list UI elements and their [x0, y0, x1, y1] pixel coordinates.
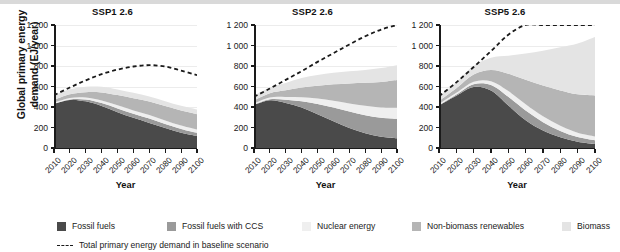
x-tick [101, 149, 102, 153]
x-axis-title: Year [54, 180, 197, 190]
x-axis-line [439, 148, 595, 150]
x-tick [269, 149, 270, 153]
legend-item-fossil-fuels-with-ccs: Fossil fuels with CCS [167, 219, 263, 233]
y-tick [51, 45, 55, 46]
x-tick [333, 149, 334, 153]
legend-item-biomass: Biomass [562, 219, 610, 233]
y-tick-label: 0 [214, 143, 248, 153]
x-tick-label: 2060 [512, 155, 535, 178]
y-tick-label: 200 [14, 123, 48, 133]
legend-item-baseline: Total primary energy demand in baseline … [57, 238, 269, 252]
x-axis-line [54, 148, 197, 150]
y-tick-label: 400 [14, 102, 48, 112]
x-tick [560, 149, 561, 153]
panel-title: SSP5 2.6 [405, 6, 605, 17]
y-tick [436, 106, 440, 107]
x-tick-label: 2070 [529, 155, 552, 178]
y-tick-label: 200 [214, 123, 248, 133]
x-tick-label: 2010 [425, 155, 448, 178]
legend-item-non-biomass-renewables: Non-biomass renewables [412, 219, 524, 233]
legend-swatch-icon [167, 222, 176, 231]
chart-panel-ssp2: SSP2 2.602004006008001 0001 200201020202… [220, 4, 405, 200]
y-tick [436, 86, 440, 87]
y-tick-label: 0 [399, 143, 433, 153]
legend-label: Fossil fuels [72, 221, 115, 231]
x-tick [165, 149, 166, 153]
x-tick [508, 149, 509, 153]
y-tick-label: 1 200 [14, 20, 48, 30]
y-tick [251, 106, 255, 107]
y-tick [51, 86, 55, 87]
y-tick-label: 400 [214, 102, 248, 112]
y-tick [251, 65, 255, 66]
x-tick [577, 149, 578, 153]
figure-root: Global primary energy demand (EJ/year) S… [0, 4, 620, 252]
y-tick [251, 86, 255, 87]
x-tick [301, 149, 302, 153]
x-tick [69, 149, 70, 153]
x-tick [381, 149, 382, 153]
x-tick-label: 2090 [564, 155, 587, 178]
y-tick [251, 127, 255, 128]
y-tick [51, 127, 55, 128]
x-tick-label: 2030 [460, 155, 483, 178]
x-tick [594, 149, 595, 153]
y-tick [436, 24, 440, 25]
dashed-line-icon [57, 245, 73, 246]
legend-swatch-icon [562, 222, 571, 231]
y-tick-label: 0 [14, 143, 48, 153]
y-tick-label: 1 000 [214, 41, 248, 51]
y-tick [436, 127, 440, 128]
x-tick-label: 2080 [547, 155, 570, 178]
chart-panel-ssp5: SSP5 2.602004006008001 0001 200201020202… [405, 4, 605, 200]
y-tick-label: 1 000 [399, 41, 433, 51]
x-tick-label: 2050 [495, 155, 518, 178]
legend-swatch-icon [412, 222, 421, 231]
x-tick [438, 149, 439, 153]
stacked-area-series [54, 25, 197, 148]
plot-area [54, 25, 197, 148]
stacked-area-series [439, 25, 595, 148]
x-tick [349, 149, 350, 153]
x-tick [456, 149, 457, 153]
chart-panel-ssp1: SSP1 2.602004006008001 0001 200201020202… [20, 4, 205, 200]
y-tick [436, 45, 440, 46]
legend-series-row: Fossil fuelsFossil fuels with CCSNuclear… [57, 219, 617, 233]
legend-swatch-icon [302, 222, 311, 231]
x-tick [490, 149, 491, 153]
legend-item-nuclear-energy: Nuclear energy [302, 219, 375, 233]
x-tick [117, 149, 118, 153]
y-tick [251, 45, 255, 46]
legend-swatch-icon [57, 222, 66, 231]
x-tick [396, 149, 397, 153]
legend-baseline-label: Total primary energy demand in baseline … [79, 240, 269, 250]
y-tick-label: 200 [399, 123, 433, 133]
x-tick [285, 149, 286, 153]
y-tick-label: 600 [14, 82, 48, 92]
x-tick [542, 149, 543, 153]
y-tick [51, 106, 55, 107]
y-tick-label: 1 200 [399, 20, 433, 30]
y-tick [51, 24, 55, 25]
legend-label: Nuclear energy [317, 221, 375, 231]
y-tick-label: 1 200 [214, 20, 248, 30]
x-tick [525, 149, 526, 153]
x-tick [473, 149, 474, 153]
panel-title: SSP2 2.6 [220, 6, 405, 17]
x-axis-title: Year [439, 180, 595, 190]
y-tick-label: 600 [214, 82, 248, 92]
x-tick [133, 149, 134, 153]
x-tick [53, 149, 54, 153]
x-tick [196, 149, 197, 153]
stacked-area-series [254, 25, 397, 148]
x-axis-title: Year [254, 180, 397, 190]
y-tick-label: 800 [14, 61, 48, 71]
plot-area [254, 25, 397, 148]
y-tick [51, 65, 55, 66]
legend-baseline-row: Total primary energy demand in baseline … [57, 238, 617, 251]
y-tick [251, 24, 255, 25]
x-tick [317, 149, 318, 153]
chart-legend: Fossil fuelsFossil fuels with CCSNuclear… [0, 210, 620, 252]
x-axis-line [254, 148, 397, 150]
x-tick [181, 149, 182, 153]
